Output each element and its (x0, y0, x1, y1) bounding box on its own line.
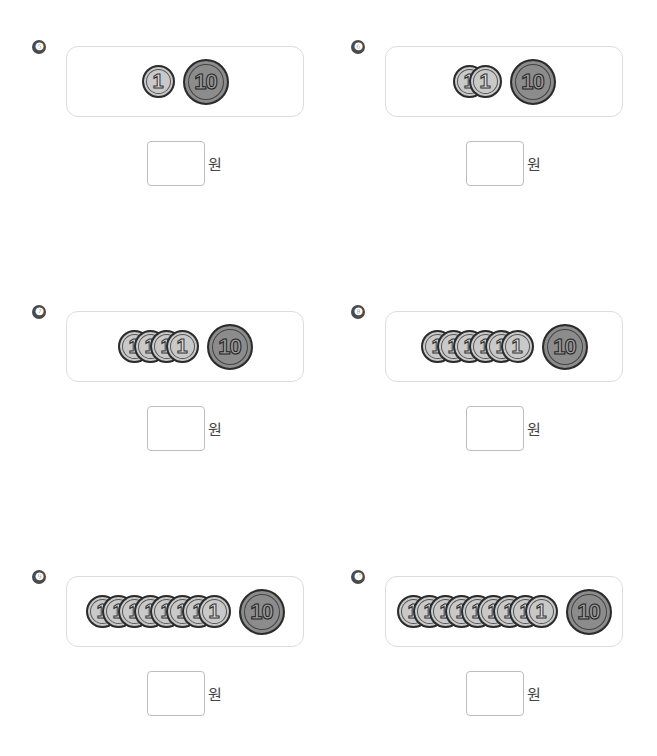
problem-number-badge: ❾ (32, 570, 46, 584)
coin-group: 1111111110 (86, 589, 285, 635)
answer-row: 원 (466, 671, 541, 716)
problem-8: ❽11111110원 (339, 305, 657, 505)
coin-group: 111110 (118, 324, 253, 370)
one-won-coin-stack: 1111 (118, 330, 199, 363)
answer-input-box[interactable] (466, 406, 524, 451)
one-won-coin-icon: 1 (166, 330, 199, 363)
coin-panel: 111110 (66, 311, 304, 382)
problem-number-badge: ❼ (32, 305, 46, 319)
ten-won-coin-icon: 10 (239, 589, 285, 635)
problem-number-badge: ❻ (351, 40, 365, 54)
answer-row: 원 (466, 141, 541, 186)
ten-won-coin-icon: 10 (510, 59, 556, 105)
coin-panel: 11111111110 (385, 576, 623, 647)
answer-row: 원 (147, 141, 222, 186)
coin-panel: 1111111110 (66, 576, 304, 647)
coin-group: 1110 (453, 59, 556, 105)
won-unit-label: 원 (208, 418, 222, 439)
one-won-coin-stack: 1 (142, 65, 175, 98)
answer-input-box[interactable] (466, 671, 524, 716)
one-won-coin-icon: 1 (198, 595, 231, 628)
coin-panel: 110 (66, 46, 304, 117)
coin-panel: 11111110 (385, 311, 623, 382)
answer-row: 원 (147, 671, 222, 716)
answer-input-box[interactable] (147, 406, 205, 451)
problem-number-badge: ❺ (32, 40, 46, 54)
one-won-coin-icon: 1 (142, 65, 175, 98)
answer-row: 원 (466, 406, 541, 451)
coin-group: 11111110 (421, 324, 588, 370)
problem-6: ❻1110원 (339, 40, 657, 240)
problem-5: ❺110원 (20, 40, 340, 240)
coin-panel: 1110 (385, 46, 623, 117)
one-won-coin-stack: 11 (453, 65, 502, 98)
one-won-coin-stack: 111111111 (397, 595, 558, 628)
ten-won-coin-icon: 10 (566, 589, 612, 635)
ten-won-coin-icon: 10 (207, 324, 253, 370)
one-won-coin-icon: 1 (525, 595, 558, 628)
won-unit-label: 원 (527, 418, 541, 439)
problem-7: ❼111110원 (20, 305, 340, 505)
one-won-coin-stack: 111111 (421, 330, 534, 363)
problem-10: ❿11111111110원 (339, 570, 657, 756)
one-won-coin-stack: 11111111 (86, 595, 231, 628)
coin-group: 110 (142, 59, 229, 105)
problem-number-badge: ❽ (351, 305, 365, 319)
problem-number-badge: ❿ (351, 570, 365, 584)
coin-group: 11111111110 (397, 589, 612, 635)
answer-row: 원 (147, 406, 222, 451)
won-unit-label: 원 (208, 683, 222, 704)
answer-input-box[interactable] (147, 141, 205, 186)
won-unit-label: 원 (527, 153, 541, 174)
one-won-coin-icon: 1 (469, 65, 502, 98)
one-won-coin-icon: 1 (501, 330, 534, 363)
won-unit-label: 원 (208, 153, 222, 174)
answer-input-box[interactable] (147, 671, 205, 716)
ten-won-coin-icon: 10 (542, 324, 588, 370)
problem-9: ❾1111111110원 (20, 570, 340, 756)
won-unit-label: 원 (527, 683, 541, 704)
ten-won-coin-icon: 10 (183, 59, 229, 105)
answer-input-box[interactable] (466, 141, 524, 186)
